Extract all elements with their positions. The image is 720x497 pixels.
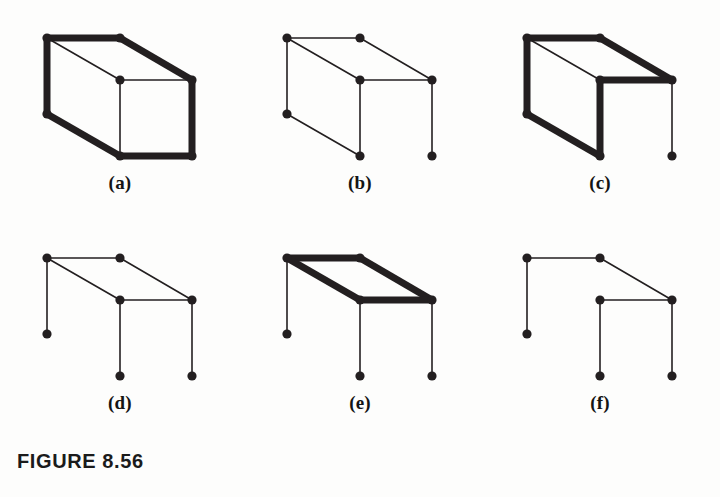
panel-c-spanning-tree-bold: (c) [480,0,720,220]
panel-f-path-tree-graph [480,220,720,405]
graph-vertex-BBL [522,109,531,118]
panel-e-bold-top-face-label: (e) [240,392,480,414]
graph-edge-BBL-FBL [527,114,600,156]
panel-grid: (a)(b)(c)(d)(e)(f) [0,0,720,440]
graph-vertex-FTR [667,75,676,84]
graph-vertex-BTR [355,33,364,42]
graph-vertex-BTR [115,33,124,42]
figure-caption: FIGURE 8.56 [17,450,144,473]
graph-edge-BTR-FTR [600,38,672,80]
panel-d-star-tree-graph [0,220,240,405]
panel-b-spanning-tree-graph [240,0,480,185]
graph-vertex-BBL [42,109,51,118]
graph-vertex-FBR [427,151,436,160]
panel-a-cube-graph [0,0,240,185]
panel-b-spanning-tree: (b) [240,0,480,220]
graph-vertex-BTL [42,253,51,262]
graph-vertex-BTR [115,253,124,262]
graph-vertex-BTL [42,33,51,42]
graph-edge-BBL-FBL [287,114,360,156]
panel-e-bold-top-face-graph [240,220,480,405]
graph-vertex-FTL [595,75,604,84]
graph-vertex-FTL [595,295,604,304]
figure-root: (a)(b)(c)(d)(e)(f) FIGURE 8.56 [0,0,720,497]
panel-d-star-tree-label: (d) [0,392,240,414]
graph-edge-BTR-FTR [360,38,432,80]
panel-f-path-tree-label: (f) [480,392,720,414]
panel-d-star-tree: (d) [0,220,240,440]
graph-vertex-BTR [355,253,364,262]
graph-vertex-BTL [282,253,291,262]
graph-edge-BTR-FTR [120,258,192,300]
graph-vertex-FTR [187,75,196,84]
graph-vertex-BBL [42,329,51,338]
panel-c-spanning-tree-bold-graph [480,0,720,185]
graph-vertex-BTL [522,33,531,42]
graph-vertex-FTR [427,295,436,304]
graph-edge-BTL-FTL [47,258,120,300]
graph-edge-BBL-FBL [47,114,120,156]
graph-vertex-BBL [522,329,531,338]
graph-edge-BTR-FTR [120,38,192,80]
graph-vertex-FTR [427,75,436,84]
graph-vertex-BBL [282,109,291,118]
graph-vertex-BTL [522,253,531,262]
graph-edge-BTL-FTL [527,38,600,80]
graph-edge-BTL-FTL [47,38,120,80]
graph-vertex-FBL [115,371,124,380]
graph-vertex-BTR [595,33,604,42]
graph-vertex-FTL [355,75,364,84]
graph-vertex-BTR [595,253,604,262]
graph-vertex-BTL [282,33,291,42]
graph-vertex-FBL [355,371,364,380]
graph-vertex-FTL [115,75,124,84]
graph-edge-BTR-FTR [360,258,432,300]
graph-vertex-FBL [595,151,604,160]
graph-vertex-FBR [187,371,196,380]
graph-edge-BTR-FTR [600,258,672,300]
graph-vertex-FBL [595,371,604,380]
panel-b-spanning-tree-label: (b) [240,172,480,194]
graph-vertex-FTL [355,295,364,304]
panel-c-spanning-tree-bold-label: (c) [480,172,720,194]
graph-vertex-FTR [187,295,196,304]
graph-vertex-FBL [115,151,124,160]
graph-vertex-FBL [355,151,364,160]
graph-vertex-FBR [187,151,196,160]
graph-vertex-FBR [427,371,436,380]
graph-vertex-FTR [667,295,676,304]
graph-edge-BTL-FTL [287,258,360,300]
graph-edge-BTL-FTL [287,38,360,80]
graph-vertex-FBR [667,151,676,160]
panel-e-bold-top-face: (e) [240,220,480,440]
graph-vertex-FBR [667,371,676,380]
panel-a-cube-label: (a) [0,172,240,194]
panel-a-cube: (a) [0,0,240,220]
graph-vertex-FTL [115,295,124,304]
graph-vertex-BBL [282,329,291,338]
panel-f-path-tree: (f) [480,220,720,440]
